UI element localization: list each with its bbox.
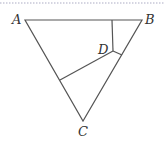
label-d: D	[97, 42, 109, 57]
label-c: C	[78, 124, 88, 139]
segment-d-to-bc	[113, 51, 122, 55]
triangle-diagram: A B C D	[0, 0, 165, 154]
triangle-abc	[25, 20, 142, 121]
label-b: B	[144, 12, 155, 27]
segment-d-to-ab	[112, 20, 113, 51]
label-a: A	[11, 12, 21, 27]
